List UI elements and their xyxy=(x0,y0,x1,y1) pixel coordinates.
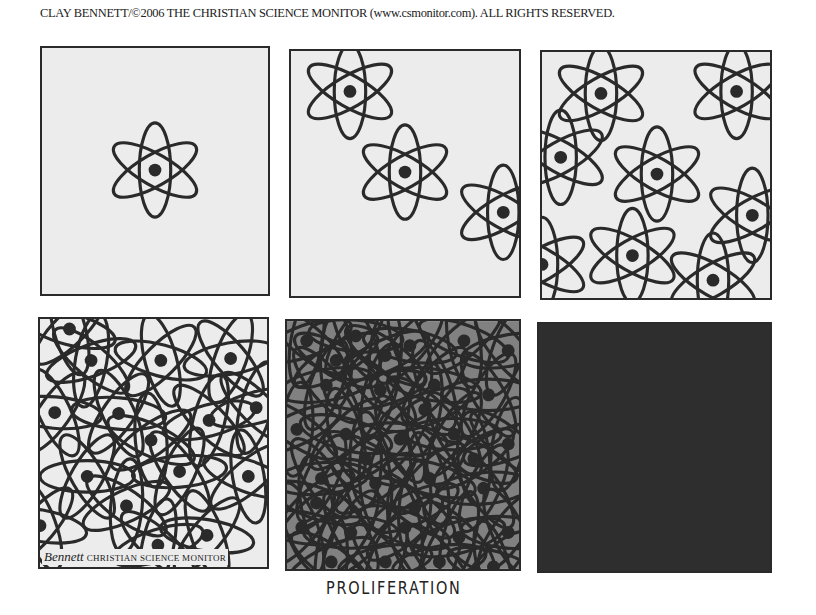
saturated-atoms-icon xyxy=(287,321,519,569)
atom-group-icon xyxy=(291,51,519,296)
panel-2 xyxy=(289,49,521,298)
panel-5 xyxy=(285,319,521,571)
artist-signature: BennettCHRISTIAN SCIENCE MONITOR xyxy=(42,549,228,565)
atom-cluster-icon xyxy=(542,52,770,298)
dense-atoms-icon xyxy=(40,319,267,567)
cartoon-caption: PROLIFERATION xyxy=(326,578,461,598)
panel-1 xyxy=(40,46,270,296)
credit-line: CLAY BENNETT/©2006 THE CHRISTIAN SCIENCE… xyxy=(40,5,728,21)
panel-4: BennettCHRISTIAN SCIENCE MONITOR xyxy=(38,317,269,569)
artist-name: Bennett xyxy=(44,549,84,564)
panel-6 xyxy=(537,322,772,573)
atom-icon xyxy=(42,48,268,294)
panel-3 xyxy=(540,50,772,300)
publication-name: CHRISTIAN SCIENCE MONITOR xyxy=(87,553,226,563)
